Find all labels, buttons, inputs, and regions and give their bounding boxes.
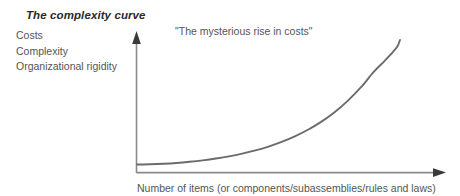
complexity-curve-line (137, 40, 400, 164)
x-axis-label: Number of items (or components/subassemb… (137, 182, 436, 194)
plot-area (0, 0, 460, 196)
y-axis-arrow-icon (132, 31, 141, 44)
x-axis-arrow-icon (433, 168, 446, 177)
complexity-curve-figure: The complexity curve Costs Complexity Or… (0, 0, 460, 196)
